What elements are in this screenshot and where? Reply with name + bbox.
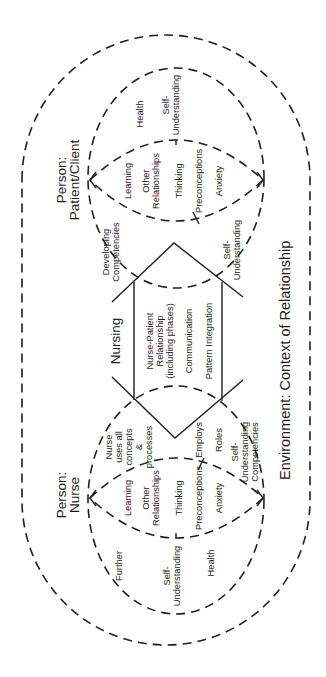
nurse-patient-relationship-diagram: Environment: Context of Relationship Per… [0, 0, 326, 677]
nurse-learning-label: Learning [123, 480, 133, 516]
environment-label: Environment: Context of Relationship [277, 241, 293, 480]
nurse-further-label: Further [114, 551, 124, 581]
patient-thinking-label: Thinking [174, 163, 184, 198]
nursing-title: Nursing [108, 318, 123, 365]
patient-other-relationships-line2: Relationships [151, 153, 161, 209]
patient-self-understanding-line2: Understanding [171, 75, 181, 135]
nurse-uses-all-line3: concepts [124, 428, 134, 466]
patient-anxiety-label: Anxiety [214, 165, 224, 196]
patient-self-understanding-2-line1: Self- [222, 240, 232, 259]
nurse-other-relationships-line2: Relationships [151, 470, 161, 526]
nurse-uses-all-line2: uses all [114, 431, 124, 463]
nurse-self-understanding-competencies-line3: Competencies [250, 422, 260, 482]
nurse-roles-label: Roles [214, 428, 224, 452]
nurse-uses-all-line4: & [134, 443, 144, 450]
patient-health-label: Health [135, 101, 145, 128]
nurse-patient-relationship-line3: (including phases) [165, 303, 175, 378]
communication-label: Communication [184, 309, 194, 374]
nurse-thinking-label: Thinking [174, 480, 184, 515]
nurse-self-understanding-competencies-line2: Understanding [240, 422, 250, 482]
patient-preconceptions-label: Preconceptions [194, 149, 204, 213]
nurse-uses-all-line1: Nurse [104, 435, 114, 460]
nurse-title-line2: Nurse [67, 477, 82, 513]
patient-developing-competencies-line2: Competencies [111, 222, 121, 282]
patient-self-understanding-line1: Self- [161, 95, 171, 114]
nurse-health-label: Health [206, 550, 216, 577]
nurse-employs-label: Employs [194, 422, 204, 458]
patient-other-relationships-line1: Other [141, 169, 151, 192]
patient-title-line2: Patient/Client [67, 140, 82, 221]
pattern-integration-label: Pattern Integration [204, 303, 214, 380]
nurse-other-relationships-line1: Other [141, 486, 151, 509]
nurse-self-understanding-line2: Understanding [172, 546, 182, 606]
nurse-patient-relationship-line1: Nurse-Patient [145, 312, 155, 369]
nurse-preconceptions-label: Preconceptions [194, 466, 204, 530]
nurse-self-understanding-competencies-line1: Self- [230, 442, 240, 461]
nurse-uses-all-line5: processes [144, 425, 154, 468]
nurse-anxiety-label: Anxiety [214, 482, 224, 513]
nurse-patient-relationship-line2: Relationship [155, 315, 165, 366]
patient-self-understanding-2-line2: Understanding [232, 220, 242, 280]
patient-developing-competencies-line1: Developing [101, 229, 111, 276]
nurse-self-understanding-line1: Self- [162, 566, 172, 585]
patient-learning-label: Learning [123, 163, 133, 199]
